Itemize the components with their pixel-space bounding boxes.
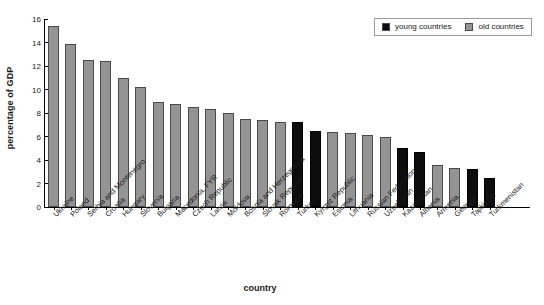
bar [170,104,181,207]
y-axis-tick-label: 16 [32,16,45,24]
legend-label-young: young countries [395,23,451,31]
y-axis-title-text: percentage of GDP [5,66,15,149]
y-axis-tick-label: 4 [37,157,45,165]
legend-label-old: old countries [478,23,523,31]
bar-chart-figure: percentage of GDP 0246810121416 country … [0,0,544,305]
y-axis-tick-label: 10 [32,86,45,94]
bar [48,26,59,207]
legend-swatch-young [382,23,390,31]
y-axis-tick-label: 14 [32,39,45,47]
chart-legend: young countries old countries [374,18,532,36]
bar [65,44,76,207]
y-axis-tick-label: 8 [37,110,45,118]
y-axis-tick-mark [45,19,48,20]
x-axis-title: country [0,283,520,293]
legend-entry-young: young countries [382,23,451,31]
y-axis-tick-label: 6 [37,133,45,141]
bar [135,87,146,207]
y-axis-tick-label: 2 [37,180,45,188]
legend-swatch-old [465,23,473,31]
y-axis-title: percentage of GDP [0,0,20,215]
y-axis-tick-label: 0 [37,204,45,212]
bar [83,60,94,207]
y-axis-tick-label: 12 [32,63,45,71]
bar [100,61,111,207]
bar [223,113,234,207]
legend-entry-old: old countries [465,23,523,31]
